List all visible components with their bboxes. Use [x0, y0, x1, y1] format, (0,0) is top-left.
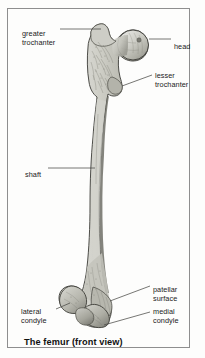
label-lesser-trochanter: lesser trochanter: [155, 72, 203, 89]
label-shaft: shaft: [25, 171, 59, 180]
label-head: head: [174, 43, 204, 52]
figure-caption: The femur (front view): [24, 337, 123, 347]
leader-patellar-surface: [110, 286, 150, 301]
greater-trochanter: [91, 24, 116, 46]
figure-frame: greater trochanter head lesser trochante…: [7, 8, 190, 348]
label-lateral-condyle: lateral condyle: [21, 308, 65, 325]
label-medial-condyle: medial condyle: [153, 308, 197, 325]
leader-lesser-trochanter: [122, 75, 152, 86]
label-patellar-surface: patellar surface: [153, 286, 201, 303]
fovea-capitis: [137, 38, 141, 42]
femoral-neck: [112, 35, 128, 56]
bone-body: [59, 24, 149, 328]
figure-page: greater trochanter head lesser trochante…: [0, 0, 205, 358]
label-greater-trochanter: greater trochanter: [22, 30, 72, 47]
